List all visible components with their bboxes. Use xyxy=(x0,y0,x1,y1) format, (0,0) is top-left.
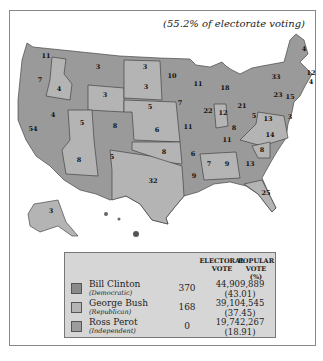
swatch-independent xyxy=(71,321,82,332)
state-electoral-label: 8 xyxy=(260,146,265,154)
legend-table: ELECTORAL VOTE POPULAR VOTE (%) Bill Cli… xyxy=(64,252,276,338)
state-electoral-label: 54 xyxy=(28,125,38,133)
state-electoral-label: 11 xyxy=(193,80,202,88)
state-electoral-label: 10 xyxy=(167,72,177,80)
state-electoral-label: 7 xyxy=(178,99,183,107)
state-electoral-label: 13 xyxy=(245,160,255,168)
state-electoral-label: 25 xyxy=(261,189,271,197)
state-electoral-label: 8 xyxy=(232,124,237,132)
state-electoral-label: 11 xyxy=(41,52,50,60)
state-electoral-label: 14 xyxy=(265,131,275,139)
hawaii-island xyxy=(118,218,121,221)
state-electoral-label: 11 xyxy=(222,136,231,144)
candidate-party: (Democratic) xyxy=(89,289,132,297)
state-electoral-label: 18 xyxy=(220,84,230,92)
state-electoral-label: 13 xyxy=(263,115,273,123)
state-electoral-label: 3 xyxy=(144,83,149,91)
state-electoral-label: 33 xyxy=(271,73,281,81)
state-alaska xyxy=(28,200,78,236)
state-electoral-label: 4 xyxy=(57,85,62,93)
state-electoral-label: 4 xyxy=(309,78,314,86)
electoral-vote: 0 xyxy=(167,321,207,331)
state-electoral-label: 5 xyxy=(148,103,153,111)
state-electoral-label: 15 xyxy=(285,93,295,101)
state-electoral-label: 9 xyxy=(225,160,230,168)
state-electoral-label: 5 xyxy=(80,119,85,127)
swatch-democratic xyxy=(71,283,82,294)
header-popular-line1: POPULAR VOTE xyxy=(231,257,281,273)
state-electoral-label: 8 xyxy=(162,148,167,156)
state-electoral-label: 11 xyxy=(183,123,192,131)
state-electoral-label: 3 xyxy=(49,207,54,215)
state-electoral-label: 5 xyxy=(252,112,257,120)
state-electoral-label: 9 xyxy=(192,172,197,180)
candidate-party: (Independent) xyxy=(89,327,136,335)
popular-vote-count: 39,104,545 xyxy=(209,298,271,308)
state-electoral-label: 4 xyxy=(302,45,307,53)
state-electoral-label: 22 xyxy=(203,107,212,115)
hawaii-big-island xyxy=(133,231,139,237)
state-electoral-label: 3 xyxy=(143,63,148,71)
popular-vote-percent: (18.91) xyxy=(209,327,271,337)
state-electoral-label: 5 xyxy=(110,153,115,161)
legend-row-perot: Ross Perot (Independent) 0 19,742,267 (1… xyxy=(71,317,271,341)
state-electoral-label: 7 xyxy=(38,76,43,84)
state-electoral-label: 8 xyxy=(77,156,82,164)
popular-vote-count: 19,742,267 xyxy=(209,317,271,327)
state-electoral-label: 8 xyxy=(113,122,118,130)
state-electoral-label: 32 xyxy=(148,177,157,185)
popular-vote: 19,742,267 (18.91) xyxy=(209,317,271,337)
state-electoral-label: 7 xyxy=(207,160,212,168)
header-popular: POPULAR VOTE (%) xyxy=(231,257,281,281)
state-electoral-label: 4 xyxy=(51,111,56,119)
hawaii-island xyxy=(104,212,108,216)
swatch-republican xyxy=(71,302,82,313)
candidate-name: George Bush xyxy=(89,298,148,308)
state-electoral-label: 21 xyxy=(237,102,246,110)
state-electoral-label: 3 xyxy=(96,63,101,71)
electoral-vote: 168 xyxy=(167,302,207,312)
state-electoral-label: 12 xyxy=(306,69,315,77)
candidate-name: Ross Perot xyxy=(89,317,138,327)
state-electoral-label: 23 xyxy=(273,91,283,99)
state-electoral-label: 3 xyxy=(288,113,293,121)
popular-vote-count: 44,909,889 xyxy=(209,279,271,289)
candidate-party: (Republican) xyxy=(89,308,131,316)
popular-vote: 44,909,889 (43.01) xyxy=(209,279,271,299)
candidate-name: Bill Clinton xyxy=(89,279,140,289)
popular-vote: 39,104,545 (37.45) xyxy=(209,298,271,318)
state-electoral-label: 6 xyxy=(191,150,196,158)
state-electoral-label: 12 xyxy=(218,109,227,117)
state-electoral-label: 3 xyxy=(103,91,108,99)
state-electoral-label: 6 xyxy=(155,126,160,134)
state-florida xyxy=(244,180,276,212)
electoral-vote: 370 xyxy=(167,283,207,293)
